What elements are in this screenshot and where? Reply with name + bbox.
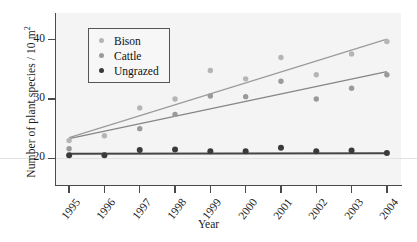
legend-marker-icon-cattle bbox=[95, 53, 107, 58]
point-bison-2002 bbox=[314, 72, 319, 77]
point-cattle-2002 bbox=[314, 96, 319, 101]
point-cattle-2004 bbox=[384, 72, 389, 77]
point-bison-2000 bbox=[243, 76, 248, 81]
point-ungrazed-2000 bbox=[243, 148, 249, 154]
y-axis-title-text: Number of plant species / 10 m bbox=[25, 30, 37, 177]
point-bison-2001 bbox=[278, 55, 283, 60]
point-bison-1999 bbox=[208, 68, 213, 73]
point-cattle-2001 bbox=[278, 79, 283, 84]
point-ungrazed-2004 bbox=[384, 150, 390, 156]
point-bison-1997 bbox=[137, 105, 142, 110]
x-axis-title: Year bbox=[0, 218, 417, 230]
legend-item-cattle: Cattle bbox=[95, 48, 159, 63]
point-ungrazed-1999 bbox=[207, 148, 213, 154]
point-cattle-1997 bbox=[137, 126, 142, 131]
point-cattle-1998 bbox=[172, 112, 177, 117]
point-ungrazed-1998 bbox=[172, 146, 178, 152]
point-ungrazed-1997 bbox=[137, 147, 143, 153]
legend-label-cattle: Cattle bbox=[114, 50, 141, 62]
point-bison-1995 bbox=[66, 138, 71, 143]
point-cattle-2003 bbox=[349, 86, 354, 91]
point-bison-1998 bbox=[172, 96, 177, 101]
legend-marker-icon-bison bbox=[95, 38, 107, 43]
point-bison-1996 bbox=[102, 133, 107, 138]
point-ungrazed-2002 bbox=[313, 148, 319, 154]
chart-legend: Bison Cattle Ungrazed bbox=[88, 28, 170, 83]
y-axis-title: Number of plant species / 10 m2 bbox=[23, 2, 37, 202]
point-ungrazed-1995 bbox=[66, 152, 72, 158]
point-ungrazed-2001 bbox=[278, 145, 284, 151]
point-bison-2003 bbox=[349, 51, 354, 56]
y-axis-title-superscript: 2 bbox=[23, 26, 32, 30]
point-bison-2004 bbox=[384, 39, 389, 44]
legend-marker-icon-ungrazed bbox=[95, 68, 107, 73]
chart-figure: 203040 199519961997199819992000200120022… bbox=[0, 0, 417, 242]
point-ungrazed-1996 bbox=[101, 152, 107, 158]
legend-label-ungrazed: Ungrazed bbox=[114, 65, 159, 77]
legend-item-ungrazed: Ungrazed bbox=[95, 63, 159, 78]
point-cattle-2000 bbox=[243, 94, 248, 99]
legend-label-bison: Bison bbox=[114, 35, 141, 47]
data-layer bbox=[0, 0, 417, 242]
point-ungrazed-2003 bbox=[349, 148, 355, 154]
trendline-ungrazed bbox=[69, 153, 387, 154]
point-cattle-1995 bbox=[66, 146, 71, 151]
point-cattle-1999 bbox=[208, 93, 213, 98]
legend-item-bison: Bison bbox=[95, 33, 159, 48]
